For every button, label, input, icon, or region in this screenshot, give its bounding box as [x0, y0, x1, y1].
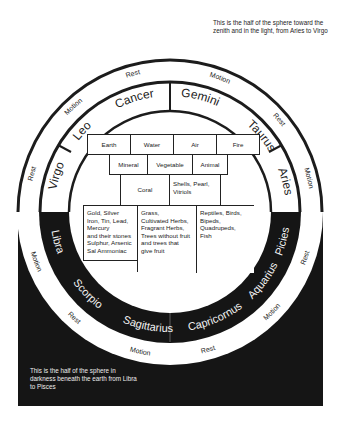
element-earth: Earth — [87, 134, 131, 155]
note-light-half: This is the half of the sphere toward th… — [213, 19, 333, 35]
intermediate-shells: Shells, Pearl, Vitriols — [169, 174, 221, 206]
examples-mineral: Gold, SilverIron, Tin, Lead,Mercuryand t… — [83, 205, 138, 261]
kingdom-mineral: Mineral — [109, 154, 148, 175]
kingdom-vegetable: Vegetable — [147, 154, 193, 175]
examples-animal: Reptiles, Birds,Bipeds,Quadrupeds,Fish — [196, 205, 254, 273]
note-dark-half: This is the half of the sphere in darkne… — [30, 367, 140, 391]
kingdom-animal: Animal — [192, 154, 228, 175]
element-fire: Fire — [216, 134, 260, 155]
examples-vegetable: Grass,Cultivated Herbs,Fragrant Herbs,Tr… — [137, 205, 197, 272]
element-water: Water — [130, 134, 174, 155]
intermediate-coral: Coral — [120, 174, 170, 206]
element-air: Air — [173, 134, 217, 155]
